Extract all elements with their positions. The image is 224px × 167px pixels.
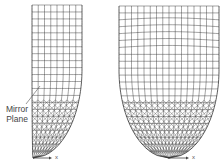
full-model-mesh: [119, 6, 219, 158]
mirror-label-line1: Mirror: [2, 104, 32, 114]
x-axis-label-right: x: [192, 154, 195, 160]
x-axis-label-left: x: [55, 154, 58, 160]
mirror-plane-label: Mirror Plane: [2, 104, 32, 124]
mirror-label-line2: Plane: [2, 114, 32, 124]
half-model-mesh: [32, 5, 82, 158]
mesh-figure: [0, 0, 224, 167]
